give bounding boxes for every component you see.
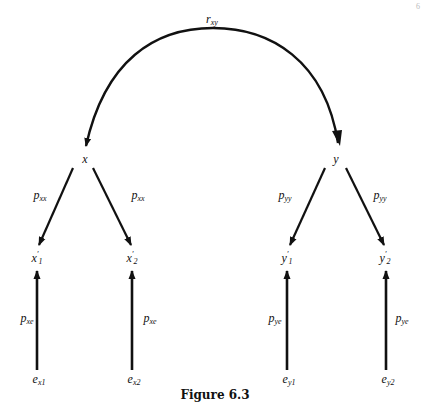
figure-caption: Figure 6.3 [180,388,249,402]
node-y1: y′1 [281,251,292,266]
node-ey2: ey2 [382,373,395,387]
node-ex1: ex1 [33,373,46,387]
node-y2: y′2 [379,251,390,266]
label-p-e-y1: pye [268,312,281,326]
path-diagram [0,0,424,411]
arrow-x-to-x2 [93,168,131,245]
node-y: y [333,153,338,165]
label-p-x-x2: pxx [131,189,144,203]
arrowhead-y [332,130,342,146]
node-x2: x′2 [126,251,137,266]
correlation-arc-rxy [86,28,338,146]
label-p-x-x1: pxx [33,189,46,203]
arrow-y-to-y1 [290,168,325,245]
label-p-y-y2: pyy [373,189,386,203]
page-corner-mark: 6 [416,2,420,11]
label-p-y-y1: pyy [278,189,291,203]
arrow-x-to-x1 [39,168,73,245]
label-rxy: rxy [206,13,218,27]
node-ey1: ey1 [283,373,296,387]
label-p-e-x2: pxe [143,312,156,326]
label-p-e-y2: pye [395,312,408,326]
node-x: x [82,153,87,165]
arrow-y-to-y2 [346,168,384,245]
label-p-e-x1: pxe [20,312,33,326]
node-ex2: ex2 [128,373,141,387]
node-x1: x′1 [31,251,42,266]
